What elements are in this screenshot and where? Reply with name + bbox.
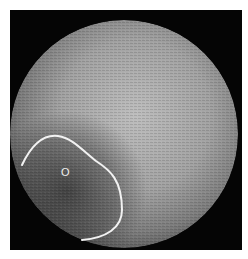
circular-specimen	[10, 10, 242, 250]
region-marker-label: O	[61, 167, 70, 178]
microscopy-field	[10, 10, 242, 250]
image-frame: O	[10, 10, 242, 250]
